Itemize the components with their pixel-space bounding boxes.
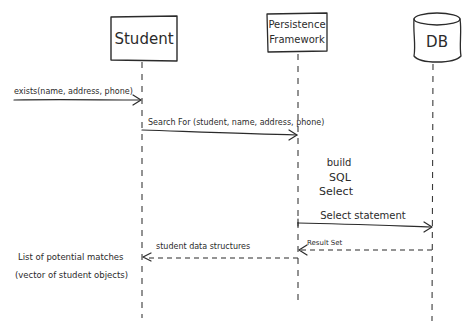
persistence-label-line1: Persistence (268, 19, 325, 30)
message-select-statement: Select statement (298, 210, 432, 232)
note-result-line2: (vector of student objects) (15, 270, 128, 280)
db-label: DB (426, 33, 448, 51)
persistence-label-line2: Framework (269, 34, 325, 45)
message-search-for: Search For (student, name, address, phon… (142, 118, 324, 140)
message-exists-label: exists(name, address, phone) (14, 87, 133, 96)
db-lifeline (432, 64, 433, 321)
message-select-statement-label: Select statement (320, 210, 406, 221)
message-student-data-structures: student data structures (143, 242, 298, 261)
message-select-statement-line (298, 223, 431, 227)
participant-student: Student (111, 16, 177, 61)
message-result-set-label: Result Set (307, 239, 343, 247)
arrowhead-icon (143, 253, 151, 261)
message-exists: exists(name, address, phone) (14, 87, 141, 105)
note-build-sql-select: build SQL Select (319, 157, 354, 198)
note-list-of-potential-matches: List of potential matches (vector of stu… (15, 252, 128, 280)
message-student-data-structures-label: student data structures (156, 242, 250, 251)
note-build-line3: Select (319, 185, 354, 198)
note-build-line2: SQL (329, 171, 352, 184)
note-build-line1: build (327, 157, 352, 168)
student-label: Student (114, 30, 173, 48)
participant-db: DB (414, 13, 461, 62)
sequence-diagram: Student Persistence Framework DB exists(… (0, 0, 468, 329)
note-result-line1: List of potential matches (18, 252, 124, 262)
db-cylinder-top (414, 13, 460, 25)
message-result-set: Result Set (299, 239, 432, 255)
message-search-for-line (142, 130, 297, 135)
participant-persistence-framework: Persistence Framework (267, 13, 327, 52)
message-search-for-label: Search For (student, name, address, phon… (148, 118, 324, 127)
